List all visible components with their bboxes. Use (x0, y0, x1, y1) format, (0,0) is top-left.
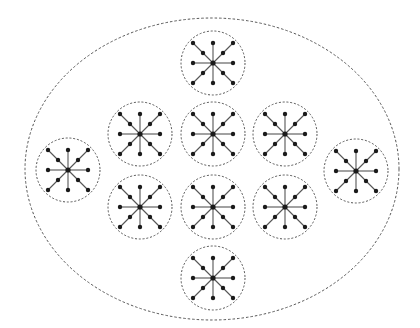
intermediate-node (293, 215, 297, 219)
intermediate-node (221, 142, 225, 146)
intermediate-node (221, 195, 225, 199)
intermediate-node (344, 159, 348, 163)
leaf-node (231, 276, 235, 280)
leaf-node (231, 205, 235, 209)
leaf-node (191, 81, 195, 85)
cluster-row1-center (181, 102, 245, 166)
leaf-node (374, 189, 378, 193)
leaf-node (46, 148, 50, 152)
leaf-node (374, 149, 378, 153)
leaf-node (283, 225, 287, 229)
leaf-node (118, 225, 122, 229)
leaf-node (231, 185, 235, 189)
hub-node (282, 131, 287, 136)
leaf-node (374, 169, 378, 173)
cluster-row2-center (181, 175, 245, 239)
intermediate-node (273, 215, 277, 219)
intermediate-node (201, 142, 205, 146)
cluster-top (181, 31, 245, 95)
cluster-right (324, 139, 388, 203)
leaf-node (303, 225, 307, 229)
hub-node (282, 204, 287, 209)
intermediate-node (293, 195, 297, 199)
leaf-node (334, 149, 338, 153)
intermediate-node (201, 122, 205, 126)
intermediate-node (128, 215, 132, 219)
leaf-node (191, 41, 195, 45)
intermediate-node (201, 51, 205, 55)
leaf-node (231, 61, 235, 65)
leaf-node (303, 112, 307, 116)
hub-node (210, 60, 215, 65)
hub-node (65, 167, 70, 172)
intermediate-node (76, 158, 80, 162)
leaf-node (191, 132, 195, 136)
intermediate-node (56, 158, 60, 162)
leaf-node (191, 152, 195, 156)
intermediate-node (128, 195, 132, 199)
leaf-node (283, 152, 287, 156)
hub-node (137, 204, 142, 209)
intermediate-node (273, 122, 277, 126)
intermediate-node (201, 71, 205, 75)
leaf-node (231, 296, 235, 300)
cluster-left (36, 138, 100, 202)
leaf-node (231, 152, 235, 156)
leaf-node (231, 41, 235, 45)
leaf-node (303, 205, 307, 209)
leaf-node (66, 148, 70, 152)
leaf-node (211, 296, 215, 300)
intermediate-node (293, 142, 297, 146)
hub-node (210, 131, 215, 136)
leaf-node (191, 225, 195, 229)
leaf-node (118, 112, 122, 116)
leaf-node (158, 112, 162, 116)
leaf-node (118, 152, 122, 156)
intermediate-node (221, 122, 225, 126)
leaf-node (191, 256, 195, 260)
leaf-node (46, 188, 50, 192)
diagram-canvas (0, 0, 420, 328)
leaf-node (263, 225, 267, 229)
intermediate-node (148, 215, 152, 219)
intermediate-node (148, 195, 152, 199)
intermediate-node (344, 179, 348, 183)
cluster-row2-left (108, 175, 172, 239)
cluster-row2-right (253, 175, 317, 239)
leaf-node (138, 185, 142, 189)
leaf-node (138, 152, 142, 156)
intermediate-node (364, 159, 368, 163)
leaf-node (303, 185, 307, 189)
leaf-node (158, 132, 162, 136)
leaf-node (354, 189, 358, 193)
leaf-node (231, 256, 235, 260)
leaf-node (191, 276, 195, 280)
hub-node (353, 168, 358, 173)
leaf-node (138, 112, 142, 116)
cluster-row1-left (108, 102, 172, 166)
leaf-node (263, 205, 267, 209)
leaf-node (263, 112, 267, 116)
intermediate-node (221, 51, 225, 55)
intermediate-node (128, 142, 132, 146)
intermediate-node (148, 142, 152, 146)
intermediate-node (128, 122, 132, 126)
leaf-node (191, 205, 195, 209)
leaf-node (354, 149, 358, 153)
leaf-node (231, 225, 235, 229)
network-cluster-diagram (0, 0, 420, 328)
leaf-node (334, 169, 338, 173)
intermediate-node (201, 215, 205, 219)
leaf-node (211, 185, 215, 189)
leaf-node (231, 132, 235, 136)
leaf-node (46, 168, 50, 172)
leaf-node (191, 112, 195, 116)
intermediate-node (221, 286, 225, 290)
leaf-node (263, 185, 267, 189)
leaf-node (158, 205, 162, 209)
hub-node (210, 275, 215, 280)
leaf-node (86, 188, 90, 192)
leaf-node (86, 168, 90, 172)
intermediate-node (273, 142, 277, 146)
leaf-node (231, 112, 235, 116)
